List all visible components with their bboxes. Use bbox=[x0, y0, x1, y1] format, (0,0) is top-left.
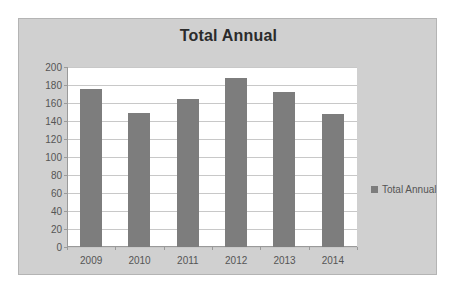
x-axis-tick-label-2011: 2011 bbox=[177, 255, 199, 266]
x-tick-mark bbox=[357, 247, 358, 250]
y-axis-tick-label: 40 bbox=[32, 206, 62, 217]
y-axis-tick-label: 80 bbox=[32, 170, 62, 181]
bar-slot bbox=[260, 67, 308, 247]
bar-2009[interactable] bbox=[80, 89, 102, 247]
x-axis-tick-label-2013: 2013 bbox=[273, 255, 295, 266]
y-axis-tick-label: 160 bbox=[32, 98, 62, 109]
chart-frame: Total Annual 020406080100120140160180200… bbox=[18, 18, 437, 275]
x-tick-mark bbox=[164, 247, 165, 250]
x-axis-tick-label-2014: 2014 bbox=[322, 255, 344, 266]
y-axis-tick-label: 60 bbox=[32, 188, 62, 199]
bar-2011[interactable] bbox=[177, 99, 199, 248]
legend-swatch-total-annual bbox=[371, 186, 378, 193]
y-axis-tick-label: 140 bbox=[32, 116, 62, 127]
x-axis-tick-label-2010: 2010 bbox=[128, 255, 150, 266]
bar-slot bbox=[164, 67, 212, 247]
legend-label-total-annual: Total Annual bbox=[382, 184, 437, 195]
bar-series bbox=[67, 67, 357, 247]
x-tick-mark bbox=[260, 247, 261, 250]
bar-2010[interactable] bbox=[128, 113, 150, 247]
bar-slot bbox=[115, 67, 163, 247]
y-axis-tick-label: 200 bbox=[32, 62, 62, 73]
y-axis-tick-label: 180 bbox=[32, 80, 62, 91]
y-axis-tick-label: 0 bbox=[32, 242, 62, 253]
bar-slot bbox=[212, 67, 260, 247]
x-tick-mark bbox=[212, 247, 213, 250]
x-tick-mark bbox=[115, 247, 116, 250]
bar-slot bbox=[67, 67, 115, 247]
bar-2012[interactable] bbox=[225, 78, 247, 247]
legend: Total Annual bbox=[371, 184, 437, 195]
bar-2014[interactable] bbox=[322, 114, 344, 247]
y-axis-tick-label: 120 bbox=[32, 134, 62, 145]
plot-area: 020406080100120140160180200 200920102011… bbox=[67, 67, 357, 247]
chart-title: Total Annual bbox=[19, 27, 438, 45]
x-axis-tick-label-2009: 2009 bbox=[80, 255, 102, 266]
bar-slot bbox=[309, 67, 357, 247]
x-tick-mark bbox=[67, 247, 68, 250]
y-axis-tick-label: 20 bbox=[32, 224, 62, 235]
chart-screenshot: Total Annual 020406080100120140160180200… bbox=[0, 0, 453, 292]
bar-2013[interactable] bbox=[273, 92, 295, 247]
y-axis-tick-label: 100 bbox=[32, 152, 62, 163]
x-tick-mark bbox=[309, 247, 310, 250]
x-axis-tick-label-2012: 2012 bbox=[225, 255, 247, 266]
